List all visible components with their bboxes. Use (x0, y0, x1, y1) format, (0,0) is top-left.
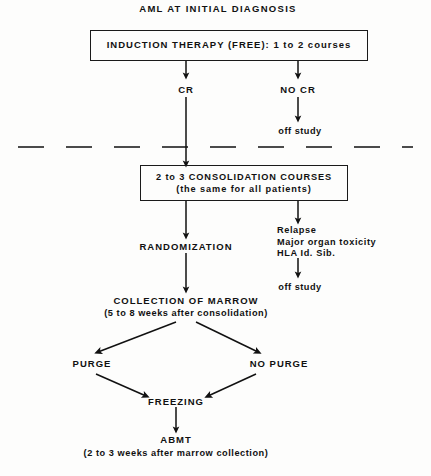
failure-reason-hla-id-sib: HLA Id. Sib. (277, 248, 376, 260)
consolidation-line-2: (the same for all patients) (176, 183, 312, 195)
arrow-nopurge-to-freezing (208, 374, 256, 396)
node-cr: CR (178, 84, 194, 95)
node-abmt: ABMT (160, 434, 191, 445)
node-collection-timing: (5 to 8 weeks after consolidation) (104, 308, 268, 319)
flowchart-canvas: AML AT INITIAL DIAGNOSIS INDUCTION THERA… (0, 0, 431, 476)
node-off-study-no-cr: off study (278, 126, 321, 137)
node-purge: PURGE (73, 358, 112, 369)
induction-therapy-label: INDUCTION THERAPY (FREE): 1 to 2 courses (107, 39, 352, 52)
node-failure-reasons: Relapse Major organ toxicity HLA Id. Sib… (277, 225, 376, 260)
node-freezing: FREEZING (148, 396, 204, 407)
consolidation-line-1: 2 to 3 CONSOLIDATION COURSES (156, 171, 332, 183)
node-collection-of-marrow: COLLECTION OF MARROW (113, 295, 258, 306)
arrow-purge-to-freezing (96, 374, 146, 396)
induction-therapy-box: INDUCTION THERAPY (FREE): 1 to 2 courses (90, 30, 368, 61)
node-abmt-timing: (2 to 3 weeks after marrow collection) (84, 448, 269, 459)
node-no-cr: NO CR (280, 84, 316, 95)
failure-reason-relapse: Relapse (277, 225, 376, 237)
consolidation-courses-box: 2 to 3 CONSOLIDATION COURSES (the same f… (140, 165, 348, 201)
diagram-title: AML AT INITIAL DIAGNOSIS (139, 3, 297, 14)
arrow-collection-to-purge (98, 322, 176, 352)
failure-reason-organ-toxicity: Major organ toxicity (277, 237, 376, 249)
node-randomization: RANDOMIZATION (139, 241, 232, 252)
node-no-purge: NO PURGE (250, 358, 309, 369)
node-off-study-failures: off study (278, 282, 321, 293)
arrow-collection-to-nopurge (196, 322, 258, 352)
